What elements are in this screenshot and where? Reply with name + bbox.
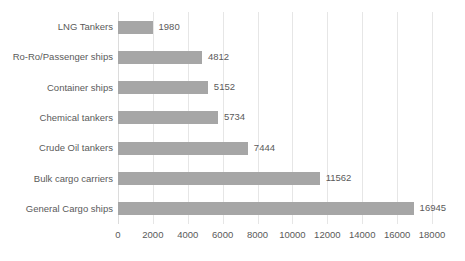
category-label: Ro-Ro/Passenger ships — [0, 50, 113, 64]
bar — [118, 172, 320, 185]
category-label: Container ships — [0, 81, 113, 95]
x-tick-label: 12000 — [314, 228, 340, 242]
category-label: LNG Tankers — [0, 20, 113, 34]
bar — [118, 21, 153, 34]
bar-row: 5734 — [118, 103, 432, 133]
x-tick-label: 18000 — [419, 228, 445, 242]
bar-row: 5152 — [118, 73, 432, 103]
category-label: Bulk cargo carriers — [0, 172, 113, 186]
bar — [118, 51, 202, 64]
bar-row: 1980 — [118, 12, 432, 42]
bar-value-label: 5152 — [214, 80, 235, 94]
bar-value-label: 7444 — [254, 141, 275, 155]
bar-row: 4812 — [118, 42, 432, 72]
x-tick-label: 6000 — [212, 228, 233, 242]
x-tick-label: 8000 — [247, 228, 268, 242]
category-axis-labels: LNG TankersRo-Ro/Passenger shipsContaine… — [0, 12, 113, 224]
x-axis-tick-labels: 0200040006000800010000120001400016000180… — [118, 228, 432, 244]
x-tick-label: 2000 — [142, 228, 163, 242]
bar — [118, 202, 414, 215]
category-label: Crude Oil tankers — [0, 141, 113, 155]
bar-row: 11562 — [118, 163, 432, 193]
x-tick-label: 4000 — [177, 228, 198, 242]
gridline-18000 — [432, 12, 433, 224]
category-label: Chemical tankers — [0, 111, 113, 125]
bar-value-label: 4812 — [208, 50, 229, 64]
bar-value-label: 16945 — [420, 201, 446, 215]
category-label: General Cargo ships — [0, 202, 113, 216]
bar-value-label: 11562 — [326, 171, 352, 185]
x-tick-label: 16000 — [384, 228, 410, 242]
x-tick-label: 14000 — [349, 228, 375, 242]
plot-area: 198048125152573474441156216945 — [118, 12, 432, 224]
bar-value-label: 5734 — [224, 110, 245, 124]
bar — [118, 81, 208, 94]
bar-row: 7444 — [118, 133, 432, 163]
bar — [118, 142, 248, 155]
x-tick-label: 10000 — [279, 228, 305, 242]
bar-value-label: 1980 — [159, 20, 180, 34]
x-tick-label: 0 — [115, 228, 120, 242]
bar-rows: 198048125152573474441156216945 — [118, 12, 432, 224]
bar — [118, 111, 218, 124]
bar-chart: 198048125152573474441156216945 LNG Tanke… — [0, 0, 465, 261]
bar-row: 16945 — [118, 194, 432, 224]
